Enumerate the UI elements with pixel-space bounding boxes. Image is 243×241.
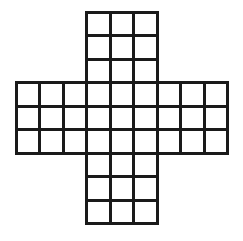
grid-cell [181, 106, 205, 130]
grid-cell [134, 200, 158, 224]
grid-cell [87, 12, 111, 36]
grid-cell [110, 36, 134, 60]
grid-cell [87, 153, 111, 177]
grid-cell [87, 177, 111, 201]
greek-cross-grid-figure [0, 0, 243, 241]
grid-cell [63, 130, 87, 154]
grid-cell [16, 83, 40, 107]
grid-cell [181, 83, 205, 107]
grid-cell [110, 12, 134, 36]
grid-cell [134, 59, 158, 83]
grid-cell [87, 59, 111, 83]
grid-cell [110, 106, 134, 130]
grid-cell [157, 106, 181, 130]
grid-cell [204, 106, 228, 130]
grid-cell [16, 130, 40, 154]
grid-cell [110, 177, 134, 201]
grid-cell [134, 12, 158, 36]
grid-cell [110, 200, 134, 224]
grid-cell [134, 83, 158, 107]
grid-cell [134, 153, 158, 177]
grid-cell [157, 130, 181, 154]
grid-cell [16, 106, 40, 130]
grid-cell [110, 130, 134, 154]
grid-cell [87, 36, 111, 60]
grid-cell [87, 83, 111, 107]
grid-cell [40, 130, 64, 154]
grid-cell [134, 177, 158, 201]
grid-cell [110, 83, 134, 107]
grid-cell [87, 106, 111, 130]
grid-cell [87, 200, 111, 224]
grid-cell [204, 130, 228, 154]
grid-cell [134, 36, 158, 60]
grid-cell [204, 83, 228, 107]
grid-cell [110, 153, 134, 177]
grid-cell [110, 59, 134, 83]
grid-cell [63, 106, 87, 130]
grid-cell [134, 130, 158, 154]
grid-cell [63, 83, 87, 107]
grid-cell [157, 83, 181, 107]
grid-cell [87, 130, 111, 154]
grid-cell [40, 83, 64, 107]
grid-cell [134, 106, 158, 130]
grid-cell [181, 130, 205, 154]
grid-cell [40, 106, 64, 130]
